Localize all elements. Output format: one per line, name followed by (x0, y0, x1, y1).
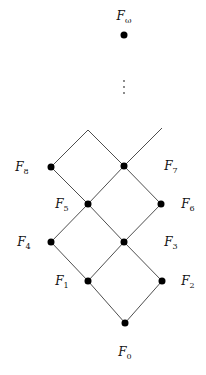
lattice-diagram: FωF8F7F6F5F4F3F2F1F0 (0, 0, 206, 375)
edge-F1-F3 (88, 242, 124, 281)
ellipsis-dot (123, 86, 125, 88)
node-F3 (121, 239, 128, 246)
label-F5: F5 (54, 197, 68, 213)
label-subscript: 1 (64, 281, 69, 290)
label-subscript: 3 (173, 242, 178, 251)
ellipsis-dot (123, 80, 125, 82)
node-F2 (159, 278, 166, 285)
label-F8: F8 (14, 160, 28, 176)
edge-F7-top-open (88, 130, 124, 166)
edge-F2-F3 (124, 242, 162, 281)
node-F4 (48, 239, 55, 246)
label-F1: F1 (54, 274, 68, 290)
node-F1 (85, 278, 92, 285)
edge-F0-F2 (125, 281, 162, 323)
label-F6: F6 (180, 197, 194, 213)
label-subscript: 8 (24, 167, 29, 176)
label-subscript: 4 (26, 242, 31, 251)
label-F4: F4 (16, 235, 30, 251)
node-F6 (158, 201, 165, 208)
label-subscript: ω (125, 16, 132, 25)
label-F3: F3 (163, 235, 177, 251)
ellipsis-dot (123, 92, 125, 94)
label-subscript: 0 (127, 352, 132, 361)
label-subscript: 7 (173, 166, 178, 175)
labels: FωF8F7F6F5F4F3F2F1F0 (14, 9, 194, 361)
node-F0 (122, 320, 129, 327)
label-subscript: 5 (64, 204, 69, 213)
node-F5 (85, 201, 92, 208)
edge-F6-F7 (124, 166, 161, 204)
label-F0: F0 (117, 345, 131, 361)
node-F8 (48, 164, 55, 171)
label-subscript: 6 (190, 204, 195, 213)
node-F_omega (121, 32, 128, 39)
vertical-ellipsis (123, 80, 125, 94)
label-F_omega: Fω (116, 9, 132, 25)
edge-F5-F7 (88, 166, 124, 204)
node-F7 (121, 163, 128, 170)
label-subscript: 2 (190, 281, 195, 290)
edge-F8-top-open (51, 130, 88, 167)
edge-F0-F1 (88, 281, 125, 323)
edge-F3-F6 (124, 204, 161, 242)
label-F7: F7 (163, 159, 177, 175)
label-F2: F2 (180, 274, 194, 290)
edge-F3-F5 (88, 204, 124, 242)
edges (51, 128, 162, 323)
edge-F7-right-open (124, 128, 162, 166)
